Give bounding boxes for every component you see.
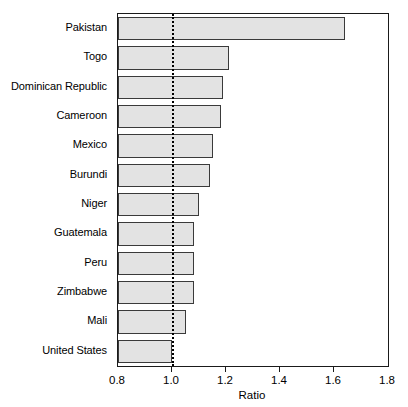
bar bbox=[118, 134, 213, 157]
bar bbox=[118, 193, 199, 216]
category-label: Guatemala bbox=[0, 218, 112, 247]
x-tick-label: 1.2 bbox=[217, 373, 233, 387]
bar-row bbox=[118, 73, 388, 102]
bar bbox=[118, 310, 186, 333]
category-label: Dominican Republic bbox=[0, 72, 112, 101]
bar bbox=[118, 76, 223, 99]
bar-row bbox=[118, 190, 388, 219]
bar bbox=[118, 17, 345, 40]
bar bbox=[118, 340, 172, 363]
x-tick-label: 1.0 bbox=[163, 373, 179, 387]
x-axis-ticks bbox=[117, 366, 387, 373]
bar-row bbox=[118, 43, 388, 72]
category-label: Niger bbox=[0, 189, 112, 218]
bar bbox=[118, 164, 210, 187]
x-tick-mark bbox=[225, 366, 226, 372]
bar-row bbox=[118, 161, 388, 190]
x-tick-mark bbox=[171, 366, 172, 372]
category-label: Pakistan bbox=[0, 13, 112, 42]
category-label: Peru bbox=[0, 248, 112, 277]
category-label: Zimbabwe bbox=[0, 277, 112, 306]
category-label: Cameroon bbox=[0, 101, 112, 130]
category-label: Mali bbox=[0, 306, 112, 335]
bar-row bbox=[118, 278, 388, 307]
plot-area bbox=[117, 13, 389, 367]
x-tick-label: 1.4 bbox=[271, 373, 287, 387]
bar-row bbox=[118, 249, 388, 278]
x-axis-tick-labels: 0.81.01.21.41.61.8 bbox=[117, 373, 387, 389]
bar-row bbox=[118, 14, 388, 43]
reference-line-1.0 bbox=[172, 14, 174, 366]
bar bbox=[118, 281, 194, 304]
x-tick-mark bbox=[333, 366, 334, 372]
category-label: United States bbox=[0, 336, 112, 365]
bar-row bbox=[118, 102, 388, 131]
x-tick-label: 1.6 bbox=[325, 373, 341, 387]
bar bbox=[118, 252, 194, 275]
category-axis-labels: PakistanTogoDominican RepublicCameroonMe… bbox=[0, 13, 112, 365]
category-label: Burundi bbox=[0, 160, 112, 189]
bar bbox=[118, 105, 221, 128]
x-axis-title: Ratio bbox=[117, 388, 387, 402]
bar bbox=[118, 222, 194, 245]
bar-row bbox=[118, 337, 388, 366]
bars-layer bbox=[118, 14, 388, 366]
bar-row bbox=[118, 219, 388, 248]
x-tick-label: 1.8 bbox=[379, 373, 395, 387]
x-tick-mark bbox=[279, 366, 280, 372]
bar-row bbox=[118, 307, 388, 336]
category-label: Mexico bbox=[0, 130, 112, 159]
bar-chart: PakistanTogoDominican RepublicCameroonMe… bbox=[0, 0, 408, 407]
x-tick-label: 0.8 bbox=[109, 373, 125, 387]
category-label: Togo bbox=[0, 42, 112, 71]
bar-row bbox=[118, 131, 388, 160]
